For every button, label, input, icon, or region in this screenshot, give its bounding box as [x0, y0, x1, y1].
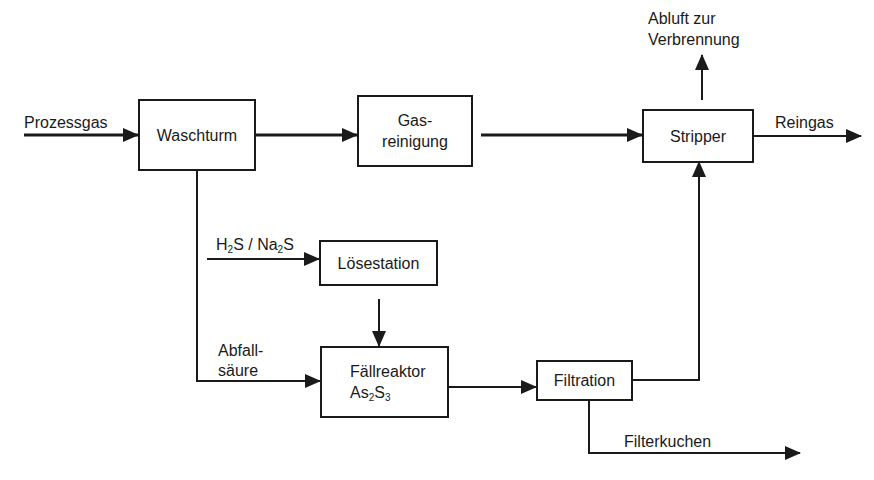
arrow-filtration-stripper [632, 162, 699, 380]
node-gasreinigung-line1: Gas- [398, 110, 433, 131]
formula-part: S [283, 236, 294, 253]
node-waschturm-label: Waschturm [157, 125, 237, 146]
node-filtration: Filtration [536, 360, 633, 401]
node-loesestation-label: Lösestation [338, 253, 420, 274]
label-filterkuchen: Filterkuchen [624, 431, 711, 452]
formula-part: S [374, 384, 385, 401]
node-gasreinigung-line2: reinigung [382, 131, 448, 152]
node-stripper-label: Stripper [670, 126, 726, 147]
node-filtration-label: Filtration [554, 370, 615, 391]
node-gasreinigung: Gas- reinigung [357, 95, 473, 167]
formula-subscript: 3 [385, 392, 391, 403]
formula-part: H [216, 236, 228, 253]
formula-part: As [350, 384, 369, 401]
label-abfall-line2: säure [218, 360, 258, 381]
label-abfall-line1: Abfall- [218, 340, 263, 361]
formula-part: S / Na [233, 236, 277, 253]
process-flow-diagram: Waschturm Gas- reinigung Stripper Lösest… [0, 0, 874, 480]
label-h2s-na2s: H2S / Na2S [216, 234, 294, 255]
label-abluft-line2: Verbrennung [648, 29, 740, 50]
label-prozessgas: Prozessgas [24, 112, 108, 133]
node-faellreaktor-line1: Fällreaktor [350, 361, 426, 382]
node-faellreaktor: Fällreaktor As2S3 [320, 346, 449, 418]
node-loesestation: Lösestation [319, 240, 438, 286]
node-stripper: Stripper [642, 109, 754, 163]
label-abluft-line1: Abluft zur [648, 8, 716, 29]
node-waschturm: Waschturm [138, 99, 256, 171]
label-reingas: Reingas [775, 112, 834, 133]
node-faellreaktor-formula: As2S3 [350, 382, 390, 403]
